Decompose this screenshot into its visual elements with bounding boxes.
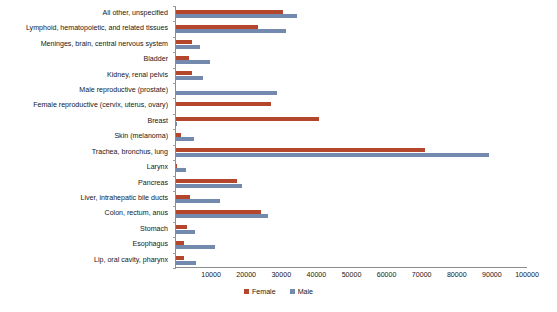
bar-group (176, 129, 527, 144)
bar-group (176, 6, 527, 21)
bar-group (176, 68, 527, 83)
category-label: Liver, intrahepatic bile ducts (80, 191, 168, 206)
bar-male (176, 214, 268, 218)
bar-male (176, 45, 200, 49)
legend-swatch-icon (290, 289, 295, 294)
category-label: Lip, oral cavity, pharynx (94, 253, 168, 268)
bar-male (176, 122, 177, 126)
category-label: Breast (147, 114, 168, 129)
bar-female (176, 148, 425, 152)
x-tick-label: 80000 (447, 270, 467, 280)
category-label: Female reproductive (cervix, uterus, ova… (33, 98, 168, 113)
bar-female (176, 164, 177, 168)
category-label: Trachea, bronchus, lung (92, 145, 168, 160)
bar-female (176, 133, 181, 137)
category-tick-mark (173, 268, 176, 269)
legend-label: Female (252, 288, 276, 296)
category-label: Pancreas (138, 176, 168, 191)
bar-male (176, 184, 242, 188)
x-tick-label: 40000 (307, 270, 327, 280)
bar-group (176, 37, 527, 52)
bar-male (176, 29, 286, 33)
x-tick-label: 70000 (412, 270, 432, 280)
x-tick-label: 50000 (342, 270, 362, 280)
x-tick-label: 100000 (515, 270, 539, 280)
category-label: Lymphoid, hematopoietic, and related tis… (26, 21, 168, 36)
bar-female (176, 102, 271, 106)
x-tick-label: 90000 (482, 270, 502, 280)
bar-male (176, 76, 203, 80)
category-label: Bladder (144, 52, 168, 67)
category-label: Esophagus (133, 237, 169, 252)
category-label: Male reproductive (prostate) (79, 83, 168, 98)
bar-group (176, 114, 527, 129)
category-axis: All other, unspecifiedLymphoid, hematopo… (0, 6, 172, 268)
category-label: Colon, rectum, anus (105, 206, 168, 221)
bar-male (176, 261, 196, 265)
category-label: All other, unspecified (103, 6, 168, 21)
bar-male (176, 199, 220, 203)
bar-group (176, 237, 527, 252)
bar-male (176, 153, 489, 157)
category-label: Skin (melanoma) (114, 129, 168, 144)
x-tick-label: 20000 (236, 270, 256, 280)
bar-female (176, 25, 258, 29)
bar-group (176, 52, 527, 67)
bar-female (176, 10, 283, 14)
bar-group (176, 160, 527, 175)
bar-female (176, 241, 184, 245)
bar-group (176, 253, 527, 268)
bar-female (176, 71, 192, 75)
category-label: Meninges, brain, central nervous system (41, 37, 168, 52)
bar-male (176, 230, 195, 234)
x-tick-label: 60000 (377, 270, 397, 280)
bar-group (176, 83, 527, 98)
bar-female (176, 117, 319, 121)
bar-group (176, 98, 527, 113)
x-axis-tick-labels: 1000020000300004000050000600007000080000… (176, 270, 527, 284)
bar-female (176, 225, 187, 229)
bar-female (176, 256, 184, 260)
bar-female (176, 179, 237, 183)
x-tick-label: 10000 (201, 270, 221, 280)
x-tick-label: 30000 (271, 270, 291, 280)
legend-swatch-icon (244, 289, 249, 294)
bar-female (176, 56, 189, 60)
plot-area (176, 6, 527, 268)
bar-male (176, 245, 215, 249)
chart-legend: FemaleMale (0, 288, 557, 296)
bar-group (176, 145, 527, 160)
legend-item[interactable]: Female (244, 288, 276, 296)
bar-group (176, 222, 527, 237)
bar-male (176, 168, 186, 172)
bar-female (176, 210, 261, 214)
bar-female (176, 40, 192, 44)
bar-group (176, 176, 527, 191)
bar-group (176, 206, 527, 221)
legend-label: Male (298, 288, 313, 296)
bar-chart: All other, unspecifiedLymphoid, hematopo… (0, 0, 557, 312)
bar-male (176, 14, 297, 18)
category-label: Larynx (147, 160, 168, 175)
bar-group (176, 191, 527, 206)
bar-male (176, 137, 194, 141)
bar-female (176, 195, 190, 199)
legend-item[interactable]: Male (290, 288, 313, 296)
bar-male (176, 91, 277, 95)
category-label: Kidney, renal pelvis (107, 68, 168, 83)
category-label: Stomach (140, 222, 168, 237)
bar-group (176, 21, 527, 36)
bar-male (176, 60, 210, 64)
